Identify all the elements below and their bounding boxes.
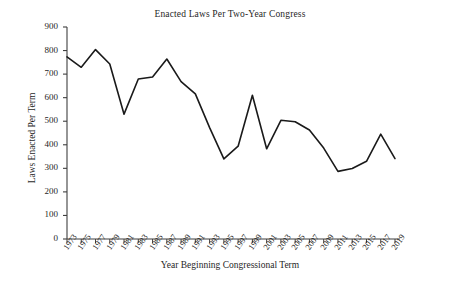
- y-axis-tick-label: 100: [28, 209, 58, 219]
- y-axis-tick-label: 0: [28, 233, 58, 243]
- y-axis-tick-label: 500: [28, 115, 58, 125]
- y-axis-tick-label: 900: [28, 21, 58, 31]
- y-axis-ticks: [63, 27, 67, 239]
- y-axis-tick-label: 600: [28, 92, 58, 102]
- data-series-line: [67, 50, 395, 172]
- chart-figure: Enacted Laws Per Two-Year Congress Laws …: [0, 0, 460, 285]
- y-axis-tick-label: 200: [28, 186, 58, 196]
- y-axis-tick-label: 400: [28, 139, 58, 149]
- y-axis-tick-label: 800: [28, 45, 58, 55]
- y-axis-tick-label: 700: [28, 68, 58, 78]
- y-axis-tick-label: 300: [28, 162, 58, 172]
